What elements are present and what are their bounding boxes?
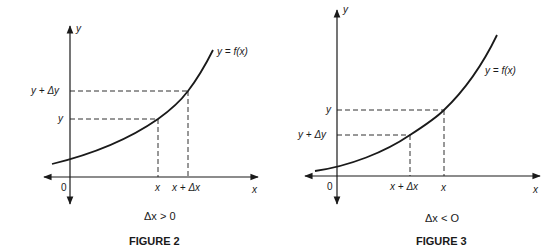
diagrams-canvas: [0, 0, 556, 250]
figure-2-y-axis-label: y: [76, 24, 81, 34]
figure-2-x-tick-left: x: [155, 183, 160, 193]
figure-3-graph: [305, 10, 540, 204]
figure-3-y-tick-lower: y + Δy: [298, 130, 326, 140]
figure-3-y-tick-upper: y: [326, 105, 331, 115]
figure-2-x-tick-right: x + Δx: [172, 183, 200, 193]
figure-2-origin-label: 0: [61, 183, 67, 193]
figure-3-x-tick-left: x + Δx: [390, 182, 418, 192]
figure-2-curve: [52, 50, 213, 164]
figure-3-dashed-guides: [337, 110, 444, 176]
figure-2-y-tick-lower: y: [58, 114, 63, 124]
figure-3-x-tick-right: x: [441, 183, 446, 193]
figure-2-caption: FIGURE 2: [129, 236, 180, 247]
figure-2-x-axis-label: x: [252, 185, 257, 195]
figure-3-origin-label: 0: [327, 182, 333, 192]
figure-2-y-tick-upper: y + Δy: [31, 86, 59, 96]
figure-3-condition: Δx < O: [425, 213, 459, 224]
figure-3-caption: FIGURE 3: [416, 236, 467, 247]
figure-2-dashed-guides: [70, 91, 188, 177]
figure-3-curve: [315, 35, 497, 171]
figure-2-condition: Δx > 0: [144, 211, 176, 222]
figure-3-curve-label: y = f(x): [485, 66, 516, 76]
figure-2-curve-label: y = f(x): [217, 47, 248, 57]
figure-3-y-axis-label: y: [343, 5, 348, 15]
figure-3-x-axis-label: x: [533, 185, 538, 195]
